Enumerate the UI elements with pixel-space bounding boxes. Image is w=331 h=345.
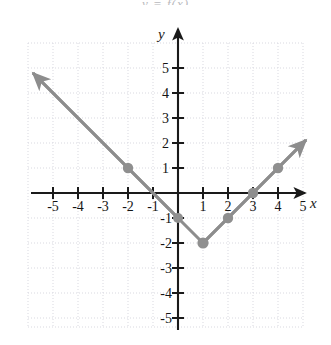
x-tick-label: 1 <box>200 199 207 214</box>
x-tick-label: -3 <box>97 199 109 214</box>
point-marker <box>173 213 183 223</box>
x-tick-label: 4 <box>275 199 282 214</box>
point-marker <box>123 163 133 173</box>
point-marker <box>248 188 258 198</box>
point-marker <box>273 163 283 173</box>
coordinate-plane-svg: y x -5 -4 -3 -2 -1 1 2 3 4 5 5 4 3 2 1 -… <box>0 0 331 345</box>
x-tick-label: 2 <box>225 199 232 214</box>
x-tick-label: -1 <box>147 199 159 214</box>
y-tick-label: -1 <box>160 211 172 226</box>
y-tick-label: -4 <box>160 286 172 301</box>
x-tick-label: -2 <box>122 199 134 214</box>
point-marker <box>197 237 208 248</box>
y-axis <box>172 29 184 330</box>
x-tick-label: -4 <box>72 199 84 214</box>
x-axis <box>31 187 305 199</box>
x-tick-label: 5 <box>300 199 307 214</box>
y-tick-label: -2 <box>160 236 172 251</box>
y-tick-label: 2 <box>162 136 169 151</box>
x-tick-label: 3 <box>250 199 257 214</box>
y-tick-label: 1 <box>162 161 169 176</box>
graph-figure: y = f(x) <box>0 0 331 345</box>
point-marker <box>223 213 233 223</box>
y-tick-label: -5 <box>160 311 172 326</box>
y-tick-label: -3 <box>160 261 172 276</box>
figure-caption: y = f(x) <box>0 0 331 5</box>
x-axis-label: x <box>309 195 317 211</box>
y-tick-label: 4 <box>162 86 169 101</box>
x-tick-label: -5 <box>47 199 59 214</box>
y-tick-label: 3 <box>162 111 169 126</box>
y-tick-label: 5 <box>162 61 169 76</box>
x-tick-labels: -5 -4 -3 -2 -1 1 2 3 4 5 <box>47 199 306 214</box>
y-axis-label: y <box>156 26 165 42</box>
